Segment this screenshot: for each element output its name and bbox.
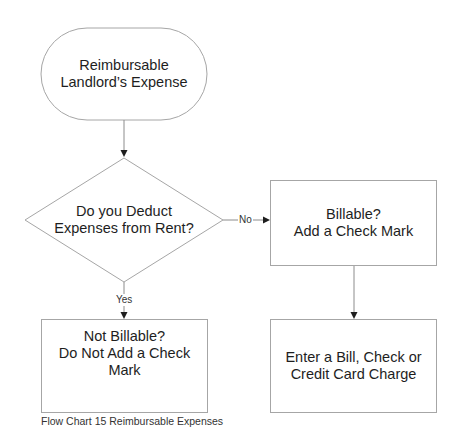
enter-node-line-2: Credit Card Charge xyxy=(285,366,421,383)
arrowhead-icon xyxy=(121,150,128,157)
billable-node: Billable? Add a Check Mark xyxy=(270,180,437,266)
billable-node-line-2: Add a Check Mark xyxy=(294,223,413,240)
decision-node-line-1: Do you Deduct xyxy=(54,203,193,220)
edge-label-yes: Yes xyxy=(115,294,133,306)
start-node-line-2: Landlord’s Expense xyxy=(60,74,187,91)
arrowhead-icon xyxy=(263,217,270,224)
arrowhead-icon xyxy=(351,312,358,319)
decision-node: Do you Deduct Expenses from Rent? xyxy=(25,158,223,282)
not-billable-node-line-2: Do Not Add a Check xyxy=(59,345,190,362)
arrowhead-icon xyxy=(121,312,128,319)
enter-node-line-1: Enter a Bill, Check or xyxy=(285,349,421,366)
not-billable-node: Not Billable? Do Not Add a Check Mark xyxy=(41,319,208,387)
not-billable-node-line-3: Mark xyxy=(59,362,190,379)
decision-node-line-2: Expenses from Rent? xyxy=(54,220,193,237)
edge-label-no: No xyxy=(238,214,253,226)
enter-node: Enter a Bill, Check or Credit Card Charg… xyxy=(270,319,437,413)
figure-caption: Flow Chart 15 Reimbursable Expenses xyxy=(41,415,223,427)
start-node-line-1: Reimbursable xyxy=(60,57,187,74)
billable-node-line-1: Billable? xyxy=(294,206,413,223)
start-node: Reimbursable Landlord’s Expense xyxy=(41,28,207,120)
not-billable-node-line-1: Not Billable? xyxy=(59,328,190,345)
